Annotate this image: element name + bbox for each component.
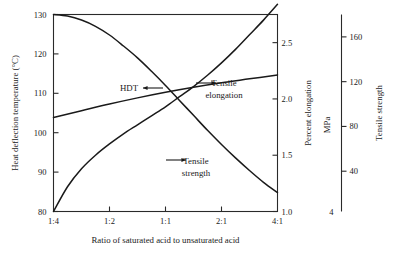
curve-annotations: HDTTensileelongationTensilestrength bbox=[120, 78, 243, 178]
x-axis-tick-label: 1:4 bbox=[48, 216, 60, 226]
annotation-label: strength bbox=[182, 168, 211, 178]
left-axis-tick-label: 110 bbox=[34, 88, 46, 98]
chart-canvas: 8090100110120130 1:41:21:12:14:1 1.01.52… bbox=[0, 0, 400, 255]
x-axis-tick-label: 2:1 bbox=[216, 216, 227, 226]
x-axis-tick-label: 1:2 bbox=[104, 216, 115, 226]
left-axis: 8090100110120130 bbox=[34, 10, 59, 217]
left-axis-tick-label: 80 bbox=[38, 207, 47, 217]
plot-frame bbox=[54, 15, 278, 212]
annotation-label: HDT bbox=[120, 83, 139, 93]
left-axis-tick-label: 100 bbox=[34, 128, 47, 138]
tensile-strength-axis: 40801201604 bbox=[329, 15, 362, 217]
strength-axis-tick-label: 160 bbox=[350, 32, 363, 42]
chart-figure: 8090100110120130 1:41:21:12:14:1 1.01.52… bbox=[0, 0, 400, 255]
elongation-axis-title: Percent elongation bbox=[303, 80, 313, 146]
plot-border bbox=[54, 15, 278, 212]
curve-tensile-strength bbox=[54, 75, 278, 118]
left-axis-tick-label: 120 bbox=[34, 49, 47, 59]
strength-axis-tick-label: 40 bbox=[350, 166, 359, 176]
left-axis-tick-label: 130 bbox=[34, 10, 47, 20]
left-axis-title: Heat deflection temperature (°C) bbox=[10, 55, 20, 171]
percent-elongation-axis: 1.01.52.02.5 bbox=[273, 38, 293, 217]
elongation-axis-tick-label: 2.5 bbox=[282, 38, 293, 48]
x-axis-tick-label: 4:1 bbox=[272, 216, 283, 226]
annotation-label: elongation bbox=[205, 90, 243, 100]
elongation-axis-tick-label: 1.5 bbox=[282, 150, 293, 160]
strength-axis-tick-label: 80 bbox=[350, 121, 359, 131]
mpa-unit-label: MPa bbox=[322, 117, 332, 134]
annotation-label: Tensile bbox=[183, 156, 208, 166]
strength-axis-title: Tensile strength bbox=[374, 84, 384, 140]
left-axis-tick-label: 90 bbox=[38, 167, 47, 177]
strength-axis-origin-label: 4 bbox=[329, 207, 334, 217]
hdt-arrow-head bbox=[143, 86, 148, 90]
curve-tensile-elongation bbox=[54, 4, 278, 211]
elongation-axis-tick-label: 2.0 bbox=[282, 94, 293, 104]
x-axis: 1:41:21:12:14:1 bbox=[48, 207, 283, 226]
x-axis-title: Ratio of saturated acid to unsaturated a… bbox=[91, 235, 240, 245]
strength-axis-tick-label: 120 bbox=[350, 77, 363, 87]
data-curves bbox=[54, 4, 278, 211]
x-axis-tick-label: 1:1 bbox=[160, 216, 171, 226]
elongation-axis-tick-label: 1.0 bbox=[282, 207, 293, 217]
